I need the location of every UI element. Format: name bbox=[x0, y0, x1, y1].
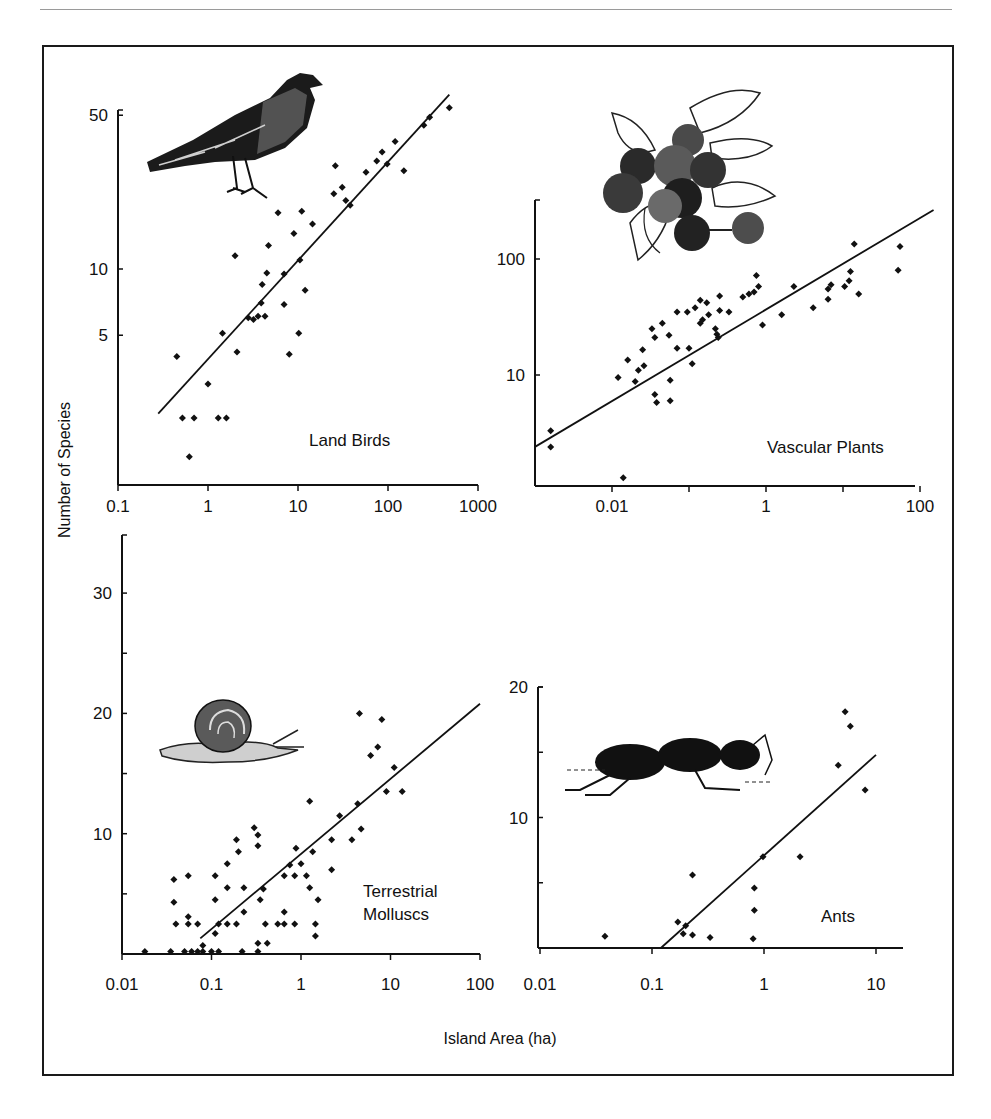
data-point bbox=[254, 842, 261, 849]
data-point bbox=[689, 931, 696, 938]
data-point bbox=[635, 367, 642, 374]
data-point bbox=[290, 230, 297, 237]
y-tick-label: 20 bbox=[93, 704, 112, 723]
y-tick-label: 50 bbox=[89, 106, 108, 125]
label-terrestrial-molluscs-line1: Terrestrial bbox=[363, 882, 438, 901]
data-point bbox=[293, 845, 300, 852]
data-point bbox=[191, 415, 198, 422]
data-point bbox=[841, 283, 848, 290]
x-axis-title: Island Area (ha) bbox=[444, 1030, 557, 1047]
data-point bbox=[659, 320, 666, 327]
data-point bbox=[224, 920, 231, 927]
data-point bbox=[697, 297, 704, 304]
y-tick-label: 10 bbox=[89, 260, 108, 279]
data-point bbox=[620, 474, 627, 481]
data-point bbox=[286, 351, 293, 358]
data-point bbox=[281, 920, 288, 927]
data-point bbox=[257, 896, 264, 903]
data-point bbox=[363, 169, 370, 176]
data-point bbox=[258, 300, 265, 307]
y-tick-label: 10 bbox=[93, 825, 112, 844]
y-tick-label: 100 bbox=[497, 250, 525, 269]
data-point bbox=[179, 415, 186, 422]
data-point bbox=[692, 304, 699, 311]
data-point bbox=[379, 149, 386, 156]
data-point bbox=[716, 292, 723, 299]
data-point bbox=[348, 836, 355, 843]
data-point bbox=[328, 836, 335, 843]
ant-illustration-icon bbox=[565, 735, 772, 795]
data-point bbox=[194, 920, 201, 927]
data-point bbox=[274, 920, 281, 927]
label-land-birds: Land Birds bbox=[309, 431, 390, 450]
panel-ants: 0.010.11101020 bbox=[509, 678, 903, 994]
data-point bbox=[703, 299, 710, 306]
data-point bbox=[674, 345, 681, 352]
data-point bbox=[855, 290, 862, 297]
panel-land-birds: 0.1110100100051050 bbox=[89, 95, 497, 516]
data-point bbox=[667, 397, 674, 404]
data-point bbox=[263, 269, 270, 276]
data-point bbox=[336, 812, 343, 819]
data-point bbox=[750, 935, 757, 942]
data-point bbox=[185, 872, 192, 879]
data-point bbox=[674, 918, 681, 925]
x-tick-label: 10 bbox=[289, 497, 308, 516]
data-point bbox=[173, 353, 180, 360]
data-point bbox=[667, 377, 674, 384]
data-point bbox=[233, 836, 240, 843]
data-point bbox=[298, 860, 305, 867]
x-tick-label: 0.1 bbox=[106, 497, 130, 516]
x-tick-label: 0.1 bbox=[200, 975, 224, 994]
data-point bbox=[240, 884, 247, 891]
data-point bbox=[356, 710, 363, 717]
data-point bbox=[262, 313, 269, 320]
data-point bbox=[312, 920, 319, 927]
data-point bbox=[295, 330, 302, 337]
data-point bbox=[716, 307, 723, 314]
data-point bbox=[705, 311, 712, 318]
data-point bbox=[862, 787, 869, 794]
data-point bbox=[170, 899, 177, 906]
data-point bbox=[275, 209, 282, 216]
data-point bbox=[339, 184, 346, 191]
data-point bbox=[212, 896, 219, 903]
data-point bbox=[624, 356, 631, 363]
data-point bbox=[810, 304, 817, 311]
data-point bbox=[262, 920, 269, 927]
data-point bbox=[651, 391, 658, 398]
label-vascular-plants: Vascular Plants bbox=[767, 438, 884, 457]
data-point bbox=[330, 190, 337, 197]
y-axis-title: Number of Species bbox=[56, 402, 73, 538]
data-point bbox=[689, 360, 696, 367]
data-point bbox=[897, 243, 904, 250]
snail-illustration-icon bbox=[160, 700, 304, 762]
data-point bbox=[825, 296, 832, 303]
data-point bbox=[547, 427, 554, 434]
data-point bbox=[601, 933, 608, 940]
data-point bbox=[446, 104, 453, 111]
y-tick-label: 5 bbox=[99, 326, 108, 345]
data-point bbox=[315, 896, 322, 903]
data-point bbox=[286, 861, 293, 868]
y-tick-label: 10 bbox=[506, 366, 525, 385]
data-point bbox=[383, 788, 390, 795]
data-point bbox=[170, 876, 177, 883]
data-point bbox=[240, 908, 247, 915]
data-point bbox=[224, 860, 231, 867]
figure-canvas: Number of Species Island Area (ha) 0.111… bbox=[0, 0, 991, 1119]
data-point bbox=[374, 744, 381, 751]
data-point bbox=[895, 267, 902, 274]
data-point bbox=[309, 848, 316, 855]
data-point bbox=[185, 913, 192, 920]
data-point bbox=[739, 294, 746, 301]
data-point bbox=[648, 325, 655, 332]
x-tick-label: 1 bbox=[296, 975, 305, 994]
data-point bbox=[186, 453, 193, 460]
data-point bbox=[259, 281, 266, 288]
data-point bbox=[306, 884, 313, 891]
data-point bbox=[223, 415, 230, 422]
data-point bbox=[420, 122, 427, 129]
x-tick-label: 1 bbox=[761, 497, 770, 516]
x-tick-label: 0.01 bbox=[523, 975, 556, 994]
